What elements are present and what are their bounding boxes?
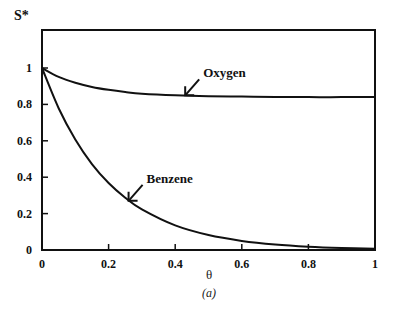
x-tick-label: 1: [372, 257, 378, 271]
y-tick-label: 0.4: [17, 170, 32, 184]
series-lines: [42, 68, 375, 249]
y-tick-label: 0.8: [17, 97, 32, 111]
x-tick-label: 0.4: [168, 257, 183, 271]
arrow-icon: [185, 79, 199, 95]
series-line-benzene: [42, 68, 375, 249]
series-label: Oxygen: [203, 65, 246, 80]
x-tick-label: 0.8: [301, 257, 316, 271]
annotations: OxygenBenzene: [129, 65, 247, 201]
annotation-oxygen: Oxygen: [185, 65, 246, 95]
x-tick-label: 0.6: [234, 257, 249, 271]
chart: 00.20.40.60.8100.20.40.60.81 OxygenBenze…: [0, 0, 398, 315]
figure-caption: (a): [202, 286, 216, 300]
x-axis-label: θ: [206, 267, 212, 282]
x-tick-label: 0: [39, 257, 45, 271]
y-tick-label: 0.6: [17, 134, 32, 148]
annotation-benzene: Benzene: [129, 171, 193, 201]
plot-frame: [42, 30, 375, 250]
y-tick-label: 0.2: [17, 207, 32, 221]
y-tick-label: 1: [26, 61, 32, 75]
y-axis-label: S*: [14, 8, 29, 23]
y-tick-label: 0: [26, 243, 32, 257]
x-tick-label: 0.2: [101, 257, 116, 271]
arrow-icon: [129, 185, 143, 201]
axis-ticks: 00.20.40.60.8100.20.40.60.81: [17, 61, 378, 271]
plot-border: [42, 30, 375, 250]
series-label: Benzene: [147, 171, 193, 186]
